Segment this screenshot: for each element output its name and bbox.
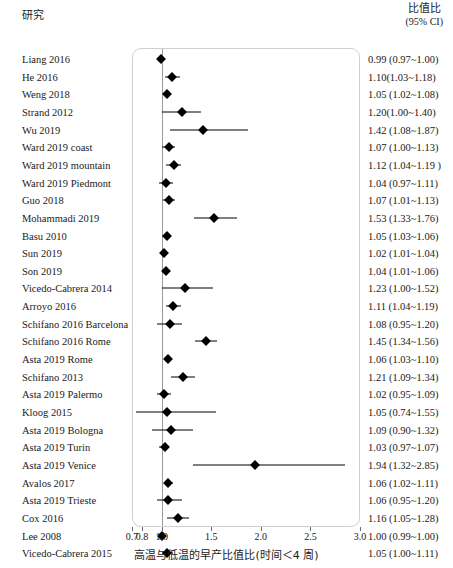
x-axis-tick-label: 1.5	[205, 531, 218, 542]
effect-estimate-value: 1.00 (0.99~1.00)	[368, 530, 438, 541]
study-label: Cox 2016	[22, 512, 63, 523]
study-label: Sun 2019	[22, 248, 62, 259]
confidence-interval-line	[136, 412, 216, 413]
study-label: Ward 2019 coast	[22, 142, 92, 153]
x-axis-tick-label: 0.8	[136, 531, 149, 542]
study-label: Liang 2016	[22, 54, 70, 65]
study-label: Schifano 2016 Barcelona	[22, 318, 128, 329]
column-header-odds-ratio-label: 比值比	[406, 2, 444, 15]
x-axis-tick-label: 2.5	[304, 531, 317, 542]
confidence-interval-line	[193, 464, 345, 465]
x-axis-tick-label: 3.0	[354, 531, 367, 542]
x-axis-title: 高温与低温的早产比值比(时间＜4 周)	[0, 546, 453, 562]
confidence-interval-line	[170, 129, 248, 130]
effect-estimate-value: 1.07 (1.01~1.13)	[368, 195, 438, 206]
effect-estimate-value: 1.06 (0.95~1.20)	[368, 495, 438, 506]
effect-estimate-value: 1.21 (1.09~1.34)	[368, 371, 438, 382]
effect-estimate-value: 1.07 (1.00~1.13)	[368, 142, 438, 153]
study-label: Ward 2019 mountain	[22, 159, 110, 170]
effect-estimate-value: 1.06 (1.03~1.10)	[368, 354, 438, 365]
effect-estimate-value: 1.06 (1.02~1.11)	[368, 477, 438, 488]
study-label: Ward 2019 Piedmont	[22, 177, 111, 188]
study-label: Asta 2019 Palermo	[22, 389, 103, 400]
effect-estimate-value: 1.53 (1.33~1.76)	[368, 212, 438, 223]
effect-estimate-value: 1.11 (1.04~1.19)	[368, 301, 438, 312]
effect-estimate-value: 1.16 (1.05~1.28)	[368, 512, 438, 523]
effect-estimate-value: 1.23 (1.00~1.52)	[368, 283, 438, 294]
study-label: Avalos 2017	[22, 477, 75, 488]
study-label: Strand 2012	[22, 106, 73, 117]
effect-estimate-value: 1.03 (0.97~1.07)	[368, 442, 438, 453]
study-label: Asta 2019 Rome	[22, 354, 93, 365]
effect-estimate-value: 1.05 (0.74~1.55)	[368, 407, 438, 418]
study-label: Schifano 2016 Rome	[22, 336, 111, 347]
effect-estimate-value: 1.12 (1.04~1.19 )	[368, 159, 441, 170]
study-label: Weng 2018	[22, 89, 70, 100]
study-label: Basu 2010	[22, 230, 67, 241]
study-label: Arroyo 2016	[22, 301, 76, 312]
study-label: Asta 2019 Venice	[22, 459, 96, 470]
x-axis-tick-label: 2.0	[255, 531, 268, 542]
study-label: Lee 2008	[22, 530, 61, 541]
effect-estimate-value: 1.02 (0.95~1.09)	[368, 389, 438, 400]
effect-estimate-value: 1.09 (0.90~1.32)	[368, 424, 438, 435]
study-label: Mohammadi 2019	[22, 212, 99, 223]
study-label: He 2016	[22, 71, 58, 82]
effect-estimate-value: 1.94 (1.32~2.85)	[368, 459, 438, 470]
x-axis-tick-label: 1.0	[155, 531, 168, 542]
effect-estimate-value: 1.05 (1.02~1.08)	[368, 89, 438, 100]
effect-estimate-value: 1.20(1.00~1.40)	[368, 106, 436, 117]
effect-estimate-value: 1.04 (1.01~1.06)	[368, 265, 438, 276]
effect-estimate-value: 1.10(1.03~1.18)	[368, 71, 436, 82]
study-label: Schifano 2013	[22, 371, 83, 382]
effect-estimate-value: 1.42 (1.08~1.87)	[368, 124, 438, 135]
study-label: Vicedo-Cabrera 2014	[22, 283, 112, 294]
effect-estimate-value: 1.02 (1.01~1.04)	[368, 248, 438, 259]
column-header-ci-label: (95% CI)	[406, 15, 444, 28]
study-label: Asta 2019 Turin	[22, 442, 90, 453]
study-label: Kloog 2015	[22, 407, 72, 418]
column-header-study: 研究	[22, 6, 44, 22]
study-label: Asta 2019 Bologna	[22, 424, 103, 435]
study-label: Asta 2019 Trieste	[22, 495, 96, 506]
study-label: Wu 2019	[22, 124, 60, 135]
study-label: Guo 2018	[22, 195, 64, 206]
column-header-odds-ratio: 比值比 (95% CI)	[406, 2, 444, 28]
effect-estimate-value: 1.04 (0.97~1.11)	[368, 177, 438, 188]
study-label: Son 2019	[22, 265, 62, 276]
effect-estimate-value: 1.05 (1.03~1.06)	[368, 230, 438, 241]
effect-estimate-value: 1.08 (0.95~1.20)	[368, 318, 438, 329]
effect-estimate-value: 1.45 (1.34~1.56)	[368, 336, 438, 347]
effect-estimate-value: 0.99 (0.97~1.00)	[368, 54, 438, 65]
